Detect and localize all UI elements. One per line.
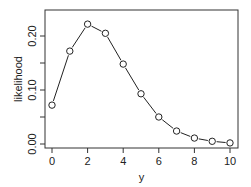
y-tick-label: 0.10 <box>26 79 38 100</box>
series-line-segment <box>144 97 156 113</box>
y-axis-label: likelihood <box>12 56 24 102</box>
y-axis: 0.000.100.20 <box>26 25 45 154</box>
data-point-marker <box>191 135 197 141</box>
data-point-marker <box>209 138 215 144</box>
x-tick-label: 2 <box>85 155 91 167</box>
series-line-segment <box>92 26 102 31</box>
series-line-segment <box>125 68 138 90</box>
series-line-segment <box>53 55 68 101</box>
data-point-marker <box>138 91 144 97</box>
likelihood-chart: 0246810 0.000.100.20 y likelihood <box>0 0 251 187</box>
data-point-marker <box>156 114 162 120</box>
y-tick-label: 0.00 <box>26 133 38 154</box>
series-line-segment <box>72 28 85 48</box>
x-tick-label: 6 <box>156 155 162 167</box>
x-tick-label: 0 <box>49 155 55 167</box>
x-tick-label: 8 <box>191 155 197 167</box>
data-point-marker <box>120 61 126 67</box>
series-line-segment <box>199 139 208 141</box>
x-axis: 0246810 <box>49 148 236 167</box>
x-tick-label: 4 <box>120 155 126 167</box>
series-line-segment <box>108 37 121 60</box>
x-tick-label: 10 <box>224 155 236 167</box>
data-point-marker <box>67 48 73 54</box>
data-point-marker <box>173 128 179 134</box>
data-point-marker <box>84 21 90 27</box>
plot-frame <box>45 10 238 148</box>
x-axis-label: y <box>139 171 145 183</box>
data-point-marker <box>227 140 233 146</box>
data-point-marker <box>102 30 108 36</box>
series-points <box>49 21 233 146</box>
series-line-segment <box>162 120 173 129</box>
data-point-marker <box>49 102 55 108</box>
y-tick-label: 0.20 <box>26 25 38 46</box>
series-line-segment <box>217 142 226 143</box>
series-line-segment <box>181 133 191 137</box>
